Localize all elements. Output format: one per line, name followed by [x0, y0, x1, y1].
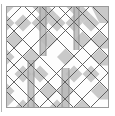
pattern-panel — [0, 0, 115, 116]
figure-root — [0, 0, 115, 116]
geometric-lattice-pattern — [0, 0, 115, 116]
vertical-strip — [40, 6, 46, 56]
